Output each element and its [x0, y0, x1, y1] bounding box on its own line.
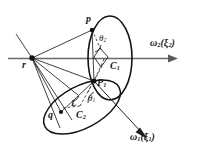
label-angle-theta1-sub: 1	[92, 97, 95, 103]
label-axis-omega1-arg-close: )	[151, 131, 154, 142]
label-axis-omega2-arg-close: )	[171, 37, 174, 48]
label-center-C2-text: C	[76, 109, 83, 120]
label-axis-omega2: ω2(ξ2)	[150, 38, 175, 48]
label-point-q: q	[48, 110, 53, 120]
ray-r-upper-left	[16, 34, 32, 58]
label-point-p-text: p	[86, 13, 91, 24]
ray-r-to-q	[32, 58, 61, 112]
theta2-arc	[95, 45, 101, 52]
ray-r-to-disk2-bottom	[32, 58, 60, 128]
omega1-axis-line	[94, 81, 143, 134]
label-point-P1: P1	[97, 78, 106, 88]
label-axis-omega1: ω1(ξ1)	[130, 132, 155, 142]
ray-r-to-p	[32, 30, 92, 58]
label-center-C2-sub: 2	[83, 113, 86, 120]
label-angle-theta2: θ2	[99, 34, 106, 44]
disk2-ellipse	[35, 69, 129, 146]
chord-p-to-P1	[92, 30, 94, 81]
label-angle-theta2-sub: 2	[103, 37, 106, 43]
ray-r-to-P1	[32, 58, 94, 81]
label-center-C1-sub: 1	[117, 64, 120, 71]
label-center-C1-text: C	[110, 60, 117, 71]
omega2-arrowhead-icon	[168, 54, 178, 62]
dot-q	[59, 110, 63, 114]
dot-P1	[92, 79, 97, 84]
label-angle-theta1: θ1	[88, 94, 95, 104]
label-point-P1-sub: 1	[103, 81, 106, 88]
label-L-text: L	[71, 98, 77, 108]
label-center-C2: C2	[76, 110, 86, 120]
theta2-rhombus-marker	[94, 48, 108, 67]
dot-p	[90, 28, 95, 33]
dot-r	[29, 55, 34, 60]
label-point-p: p	[86, 14, 91, 24]
label-center-C1: C1	[110, 61, 120, 71]
label-point-r: r	[22, 60, 26, 70]
figure-root: p r q P1 C1 C2 L θ2 θ1 ω2(ξ2) ω1(ξ1)	[0, 0, 202, 160]
label-L: L	[71, 99, 77, 108]
label-point-r-text: r	[22, 59, 26, 70]
label-point-q-text: q	[48, 109, 53, 120]
